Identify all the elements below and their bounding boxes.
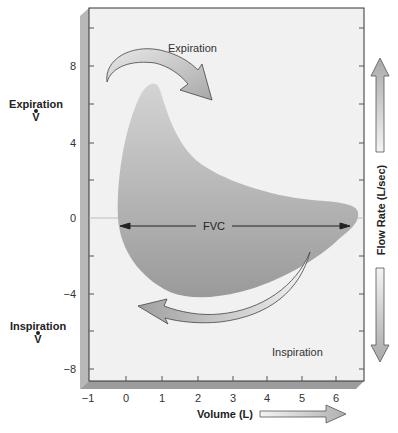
x-tick-labels: −1 0 1 2 3 4 5 6 <box>82 392 339 404</box>
svg-text:6: 6 <box>333 392 339 404</box>
flow-down-arrow <box>371 268 389 362</box>
v-dot-symbol: V <box>0 333 78 346</box>
svg-text:8: 8 <box>70 60 76 72</box>
svg-text:3: 3 <box>230 392 236 404</box>
flow-rate-axis-label: Flow Rate (L/sec) <box>375 164 387 255</box>
inspiration-side-label: Inspiration V <box>0 320 78 346</box>
svg-text:−1: −1 <box>82 392 95 404</box>
svg-text:4: 4 <box>70 137 76 149</box>
expiration-side-label: Expiration V <box>0 98 76 124</box>
flow-volume-chart: 8 4 0 −4 −8 −1 0 1 2 3 4 5 6 Expiration … <box>0 0 398 433</box>
svg-text:4: 4 <box>264 392 270 404</box>
fvc-label: FVC <box>203 220 225 232</box>
svg-text:−4: −4 <box>63 288 76 300</box>
flow-up-arrow <box>371 58 389 152</box>
svg-text:0: 0 <box>70 212 76 224</box>
svg-text:1: 1 <box>159 392 165 404</box>
inspiration-annotation: Inspiration <box>272 346 323 358</box>
v-dot-symbol: V <box>0 111 76 124</box>
svg-text:5: 5 <box>299 392 305 404</box>
volume-right-arrow <box>260 405 346 423</box>
volume-axis-label: Volume (L) <box>197 408 253 420</box>
svg-text:0: 0 <box>123 392 129 404</box>
svg-text:2: 2 <box>195 392 201 404</box>
svg-text:−8: −8 <box>63 363 76 375</box>
expiration-annotation: Expiration <box>168 42 217 54</box>
